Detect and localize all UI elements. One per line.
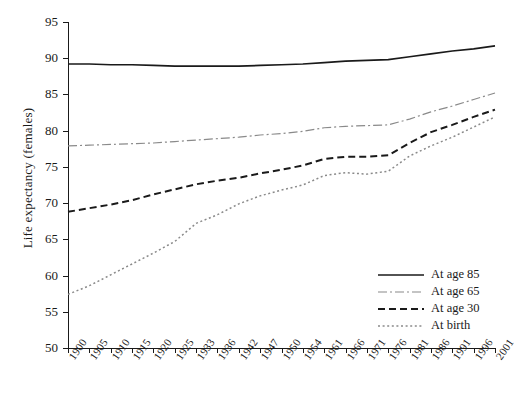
y-axis-tick-label: 90 [18,51,58,64]
line-chart-figure: Life expectancy (females) 50556065707580… [0,0,514,405]
legend-label: At birth [431,318,470,333]
series-line-at-age-30 [68,110,495,212]
y-axis-tick-label: 85 [18,87,58,100]
y-axis-tick-label: 75 [18,160,58,173]
y-axis-tick-label: 60 [18,269,58,282]
y-axis-tick-label: 95 [18,15,58,28]
legend-label: At age 65 [431,284,480,299]
legend-swatch-dash-dot-icon [378,286,424,298]
y-axis-tick-label: 80 [18,124,58,137]
legend-swatch-solid-icon [378,269,424,281]
legend-item[interactable]: At age 85 [378,266,480,283]
series-line-at-age-85 [68,46,495,66]
y-axis-tick-label: 65 [18,232,58,245]
series-line-at-age-65 [68,93,495,146]
legend-label: At age 85 [431,267,480,282]
chart-legend: At age 85At age 65At age 30At birth [378,266,480,334]
x-axis-tick-label: 2001 [493,336,514,362]
legend-label: At age 30 [431,301,480,316]
legend-item[interactable]: At birth [378,317,480,334]
legend-swatch-dashed-icon [378,303,424,315]
legend-swatch-dotted-icon [378,320,424,332]
y-axis-tick-label: 55 [18,305,58,318]
y-axis-tick-label: 50 [18,341,58,354]
legend-item[interactable]: At age 65 [378,283,480,300]
legend-item[interactable]: At age 30 [378,300,480,317]
y-axis-tick-label: 70 [18,196,58,209]
